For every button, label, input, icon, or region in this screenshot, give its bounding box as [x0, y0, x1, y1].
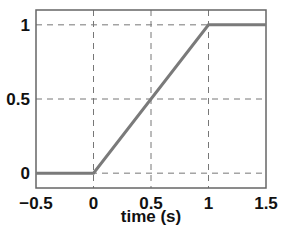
y-tick-label: 0.5 — [6, 90, 30, 109]
x-tick-label: 1.5 — [254, 194, 278, 213]
x-tick-label: 0 — [89, 194, 98, 213]
x-axis-label: time (s) — [121, 207, 181, 226]
y-tick-label: 1 — [21, 16, 30, 35]
y-tick-labels: 00.51 — [6, 16, 30, 183]
x-tick-label: 1 — [204, 194, 213, 213]
y-tick-label: 0 — [21, 164, 30, 183]
ramp-chart: 00.51 −0.500.511.5 time (s) — [0, 0, 289, 246]
x-tick-label: −0.5 — [19, 194, 53, 213]
